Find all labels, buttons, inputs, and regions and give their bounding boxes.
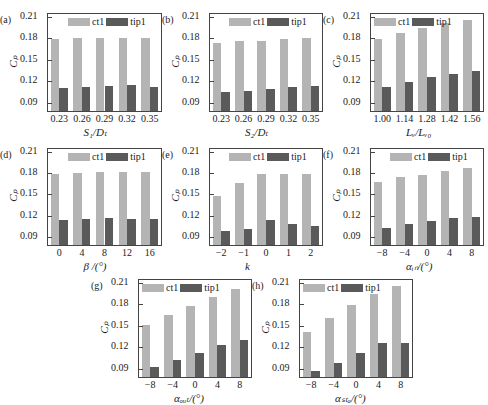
x-tick-label: 12 bbox=[116, 247, 138, 258]
bar-tip1 bbox=[311, 226, 320, 245]
y-tick-label: 0.12 bbox=[182, 209, 200, 220]
y-tick-label: 0.09 bbox=[272, 362, 290, 373]
y-tick-label: 0.18 bbox=[343, 31, 361, 42]
legend-label-tip1: tip1 bbox=[436, 16, 452, 27]
y-tick-label: 0.12 bbox=[20, 209, 38, 220]
bar-tip1 bbox=[311, 371, 320, 377]
bar-tip1 bbox=[244, 91, 253, 111]
x-tick-label: −8 bbox=[139, 379, 161, 390]
y-tick-label: 0.18 bbox=[272, 297, 290, 308]
y-tick-mark bbox=[48, 103, 52, 104]
y-tick-mark bbox=[48, 81, 52, 82]
y-tick-mark bbox=[139, 304, 143, 305]
y-tick-label: 0.18 bbox=[182, 166, 200, 177]
y-tick-mark bbox=[48, 194, 52, 195]
y-tick-mark bbox=[371, 103, 375, 104]
legend-label-tip1: tip1 bbox=[204, 282, 220, 293]
bar-ct1 bbox=[280, 174, 289, 245]
legend-swatch-ct1 bbox=[374, 18, 396, 26]
legend-label-tip1: tip1 bbox=[130, 16, 146, 27]
x-tick-label: 0 bbox=[255, 247, 277, 258]
y-tick-mark bbox=[210, 237, 214, 238]
bar-ct1 bbox=[441, 23, 450, 111]
y-tick-label: 0.12 bbox=[343, 74, 361, 85]
bar-tip1 bbox=[217, 345, 226, 377]
legend-swatch-tip1 bbox=[341, 284, 363, 292]
panel-label: (b) bbox=[162, 14, 174, 25]
x-tick-label: 0.26 bbox=[71, 113, 93, 124]
y-tick-label: 0.15 bbox=[182, 187, 200, 198]
x-tick-label: 4 bbox=[71, 247, 93, 258]
bar-tip1 bbox=[150, 219, 159, 245]
x-axis-label: S₂/Dₜ bbox=[245, 126, 268, 139]
x-tick-label: 0.32 bbox=[277, 113, 299, 124]
panel-label: (d) bbox=[0, 149, 12, 160]
panel-label: (c) bbox=[323, 14, 334, 25]
y-tick-mark bbox=[371, 237, 375, 238]
bar-ct1 bbox=[463, 168, 472, 245]
bar-ct1 bbox=[302, 38, 311, 111]
y-tick-label: 0.21 bbox=[272, 276, 290, 287]
bar-ct1 bbox=[73, 38, 82, 111]
y-tick-mark bbox=[210, 103, 214, 104]
bar-tip1 bbox=[405, 82, 414, 111]
y-tick-mark bbox=[371, 152, 375, 153]
bar-tip1 bbox=[150, 87, 159, 111]
x-tick-label: 1 bbox=[277, 247, 299, 258]
bar-ct1 bbox=[325, 318, 334, 377]
y-tick-mark bbox=[48, 60, 52, 61]
bar-tip1 bbox=[401, 343, 410, 377]
legend-swatch-tip1 bbox=[412, 18, 434, 26]
y-tick-mark bbox=[210, 173, 214, 174]
x-tick-label: −4 bbox=[394, 247, 416, 258]
bar-ct1 bbox=[96, 172, 105, 245]
y-tick-label: 0.09 bbox=[111, 362, 129, 373]
x-tick-label: 1.56 bbox=[461, 113, 483, 124]
y-tick-label: 0.15 bbox=[111, 319, 129, 330]
bar-ct1 bbox=[209, 297, 218, 377]
legend: ct1tip1 bbox=[303, 282, 381, 293]
legend: ct1tip1 bbox=[68, 16, 146, 27]
bar-tip1 bbox=[472, 217, 481, 245]
x-tick-label: 0.23 bbox=[210, 113, 232, 124]
y-tick-mark bbox=[48, 152, 52, 153]
x-tick-label: 0 bbox=[416, 247, 438, 258]
x-tick-label: 4 bbox=[367, 379, 389, 390]
legend: ct1tip1 bbox=[229, 151, 307, 162]
legend: ct1tip1 bbox=[229, 16, 307, 27]
y-tick-mark bbox=[139, 369, 143, 370]
legend-label-tip1: tip1 bbox=[291, 151, 307, 162]
y-tick-label: 0.15 bbox=[343, 53, 361, 64]
x-tick-label: 0.29 bbox=[94, 113, 116, 124]
legend-swatch-ct1 bbox=[68, 153, 90, 161]
x-tick-label: 1.14 bbox=[394, 113, 416, 124]
bar-tip1 bbox=[150, 367, 159, 377]
bar-ct1 bbox=[164, 315, 173, 378]
y-tick-mark bbox=[371, 81, 375, 82]
legend-label-ct1: ct1 bbox=[92, 151, 104, 162]
y-tick-mark bbox=[210, 17, 214, 18]
x-tick-label: 0 bbox=[48, 247, 70, 258]
bar-ct1 bbox=[441, 171, 450, 245]
y-tick-label: 0.09 bbox=[182, 230, 200, 241]
x-tick-label: 16 bbox=[139, 247, 161, 258]
y-tick-label: 0.18 bbox=[343, 166, 361, 177]
panel-label: (e) bbox=[162, 149, 173, 160]
plot-area-6 bbox=[138, 279, 252, 378]
x-axis-label: k bbox=[245, 260, 250, 272]
bar-ct1 bbox=[235, 41, 244, 111]
legend-swatch-ct1 bbox=[229, 153, 251, 161]
y-tick-mark bbox=[210, 81, 214, 82]
legend-label-ct1: ct1 bbox=[327, 282, 339, 293]
bar-tip1 bbox=[59, 88, 68, 111]
x-axis-label: S₁/Dₜ bbox=[84, 126, 107, 139]
y-tick-label: 0.21 bbox=[343, 10, 361, 21]
x-tick-label: 8 bbox=[390, 379, 412, 390]
x-tick-label: 0.35 bbox=[139, 113, 161, 124]
bar-tip1 bbox=[127, 85, 136, 111]
y-tick-mark bbox=[210, 152, 214, 153]
x-axis-label: β /(°) bbox=[84, 260, 107, 272]
y-tick-label: 0.09 bbox=[20, 230, 38, 241]
bar-tip1 bbox=[82, 87, 91, 111]
